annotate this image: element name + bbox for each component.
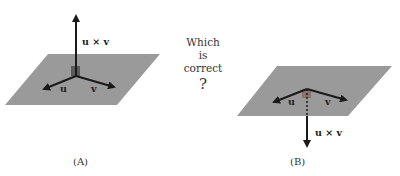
v-label-b: v <box>324 96 331 107</box>
plane-a <box>5 54 160 105</box>
question-line-3: correct <box>178 62 228 75</box>
v-label-a: v <box>90 83 97 94</box>
u-label-b: u <box>288 96 295 107</box>
caption-a: (A) <box>73 156 88 167</box>
question-line-1: Which <box>178 36 228 49</box>
cross-label-b: u × v <box>315 127 342 138</box>
panel-a <box>5 16 160 105</box>
u-label-a: u <box>60 83 67 94</box>
question-mark: ? <box>178 78 228 91</box>
cross-label-a: u × v <box>82 36 109 47</box>
question-line-2: is <box>178 49 228 62</box>
caption-b: (B) <box>290 156 305 167</box>
question-text: Which is correct ? <box>178 36 228 91</box>
